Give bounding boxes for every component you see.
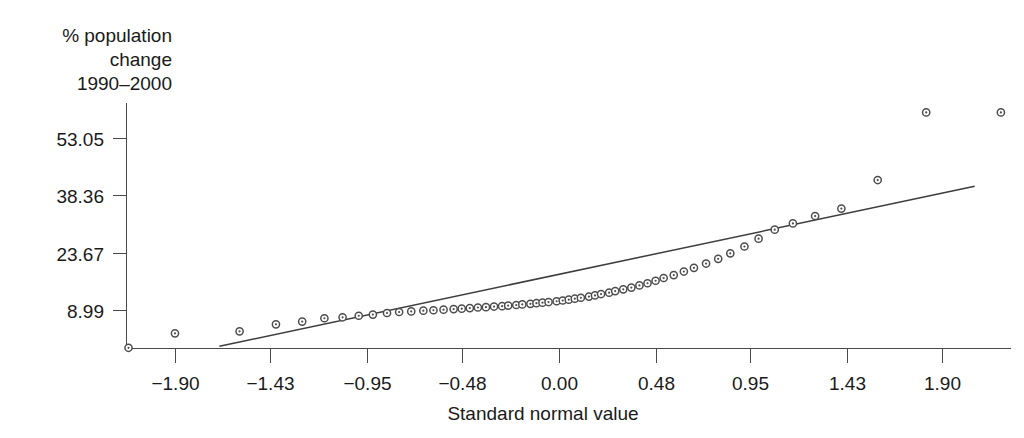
data-point-core — [477, 306, 479, 308]
data-points — [125, 109, 1005, 352]
data-point-core — [461, 308, 463, 310]
data-point-core — [683, 270, 685, 272]
data-point-core — [729, 252, 731, 254]
data-point-core — [541, 302, 543, 304]
data-point-core — [529, 303, 531, 305]
data-point-core — [547, 301, 549, 303]
data-point-core — [521, 303, 523, 305]
data-point-core — [562, 299, 564, 301]
x-tick-label: −0.95 — [343, 373, 391, 394]
data-point-core — [469, 307, 471, 309]
chart-canvas: % population change 1990–2000 8.9923.673… — [0, 0, 1024, 438]
data-point-core — [580, 297, 582, 299]
data-point-core — [705, 262, 707, 264]
normal-reference-line — [219, 186, 974, 346]
data-point-core — [275, 323, 277, 325]
data-point-core — [600, 293, 602, 295]
data-point-core — [614, 290, 616, 292]
data-point-core — [358, 315, 360, 317]
data-point-core — [630, 286, 632, 288]
data-point-core — [515, 304, 517, 306]
x-tick-label: 0.95 — [732, 373, 769, 394]
data-point-core — [654, 280, 656, 282]
x-tick-label: 1.43 — [829, 373, 866, 394]
data-point-core — [410, 310, 412, 312]
data-point-core — [663, 277, 665, 279]
x-axis-title: Standard normal value — [447, 403, 638, 424]
y-axis-label-line-1: % population — [62, 25, 172, 46]
data-point-core — [341, 316, 343, 318]
data-point-core — [877, 179, 879, 181]
data-point-core — [501, 305, 503, 307]
x-tick-label: −1.43 — [246, 373, 294, 394]
data-point-core — [238, 330, 240, 332]
data-point-core — [442, 309, 444, 311]
qq-plot-figure: % population change 1990–2000 8.9923.673… — [0, 0, 1024, 438]
data-point-core — [622, 288, 624, 290]
data-point-core — [774, 229, 776, 231]
data-point-core — [717, 258, 719, 260]
data-point-core — [568, 299, 570, 301]
y-tick-label: 53.05 — [56, 129, 104, 150]
data-point-core — [925, 111, 927, 113]
x-tick-label: 0.00 — [541, 373, 578, 394]
data-point-core — [594, 294, 596, 296]
data-point-core — [386, 312, 388, 314]
y-axis-ticks: 8.9923.6738.3653.05 — [56, 129, 126, 322]
y-axis-label-line-2: change — [110, 49, 172, 70]
data-point-core — [432, 309, 434, 311]
data-point-core — [757, 238, 759, 240]
data-point-core — [301, 320, 303, 322]
data-point-core — [493, 305, 495, 307]
data-point-core — [453, 308, 455, 310]
y-tick-label: 38.36 — [56, 186, 104, 207]
data-point-core — [743, 245, 745, 247]
data-point-core — [398, 311, 400, 313]
data-point-core — [535, 302, 537, 304]
x-axis-ticks: −1.90−1.43−0.95−0.480.000.480.951.431.90 — [151, 349, 961, 395]
x-tick-label: 0.48 — [638, 373, 675, 394]
data-point-core — [174, 332, 176, 334]
x-tick-label: −1.90 — [151, 373, 199, 394]
x-tick-label: 1.90 — [924, 373, 961, 394]
x-tick-label: −0.48 — [438, 373, 486, 394]
data-point-core — [792, 222, 794, 224]
data-point-core — [638, 284, 640, 286]
data-point-core — [127, 347, 129, 349]
y-tick-label: 23.67 — [56, 244, 104, 265]
data-point-core — [422, 310, 424, 312]
data-point-core — [693, 267, 695, 269]
data-point-core — [840, 207, 842, 209]
data-point-core — [1000, 111, 1002, 113]
data-point-core — [556, 300, 558, 302]
data-point-core — [323, 317, 325, 319]
y-axis-label-line-3: 1990–2000 — [77, 73, 172, 94]
data-point-core — [485, 306, 487, 308]
data-point-core — [608, 292, 610, 294]
data-point-core — [673, 274, 675, 276]
data-point-core — [646, 282, 648, 284]
data-point-core — [814, 215, 816, 217]
data-point-core — [588, 295, 590, 297]
data-point-core — [507, 304, 509, 306]
data-point-core — [574, 298, 576, 300]
data-point-core — [372, 313, 374, 315]
y-tick-label: 8.99 — [67, 301, 104, 322]
